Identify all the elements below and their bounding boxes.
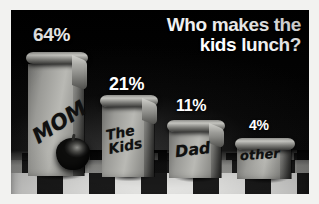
bag-side-gusset [280, 145, 292, 179]
value-label-other: 4% [249, 117, 269, 133]
value-label-mom: 64% [33, 24, 70, 46]
value-label-dad: 11% [176, 97, 206, 115]
bar-lunch-bag-dad: Dad [169, 116, 221, 178]
chart-title-line-1: Who makes the [167, 14, 301, 35]
bar-lunch-bag-other: other [237, 135, 291, 179]
value-label-the-kids: 21% [109, 74, 144, 95]
chart-title-line-2: kids lunch? [133, 35, 301, 55]
bar-lunch-bag-the-kids: The Kids [102, 91, 154, 177]
chart-title: Who makes the kids lunch? [133, 15, 301, 55]
bag-rolled-top [235, 138, 295, 150]
infographic-figure: Who makes the kids lunch? MOM The Kids [0, 0, 319, 204]
chart-plate: Who makes the kids lunch? MOM The Kids [11, 10, 309, 194]
apple-icon [56, 138, 90, 170]
bag-top-fold [72, 55, 87, 91]
